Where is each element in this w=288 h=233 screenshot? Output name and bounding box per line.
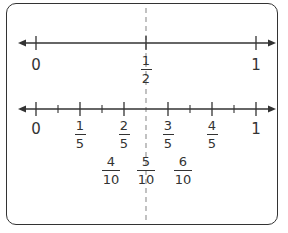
label-one-fifth: 15 — [65, 119, 95, 150]
label-five-tenths: 510 — [131, 155, 161, 186]
label-one-half: 1 2 — [131, 54, 161, 85]
label-two-fifths: 25 — [109, 119, 139, 150]
label-three-fifths: 35 — [153, 119, 183, 150]
label-1: 1 — [241, 58, 271, 73]
label-0: 0 — [21, 122, 51, 137]
arrow-right-icon — [268, 106, 276, 113]
label-six-tenths: 610 — [168, 155, 198, 186]
arrow-left-icon — [18, 40, 26, 47]
arrow-right-icon — [268, 40, 276, 47]
label-four-fifths: 45 — [197, 119, 227, 150]
label-0: 0 — [21, 58, 51, 73]
label-1: 1 — [241, 122, 271, 137]
arrow-left-icon — [18, 106, 26, 113]
number-lines — [0, 0, 288, 233]
number-line-halves — [18, 36, 276, 50]
label-four-tenths: 410 — [96, 155, 126, 186]
number-line-fifths — [18, 102, 276, 116]
